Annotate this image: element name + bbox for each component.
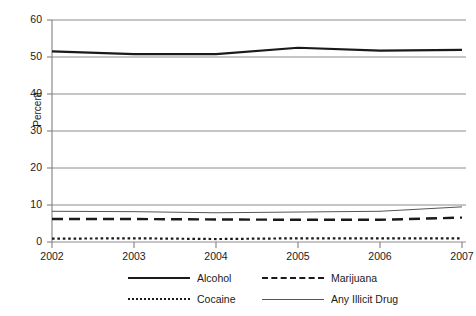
legend-line-icon-cocaine <box>128 293 190 305</box>
series-line-cocaine <box>52 238 462 239</box>
legend-item-any-illicit-drug: Any Illicit Drug <box>262 291 398 307</box>
plot-area <box>0 0 476 268</box>
legend-line-icon-marijuana <box>262 272 324 284</box>
legend-item-alcohol: Alcohol <box>128 270 231 286</box>
x-tick-label: 2003 <box>114 251 154 262</box>
legend-line-icon-alcohol <box>128 272 190 284</box>
x-tick-label: 2004 <box>196 251 236 262</box>
x-tick-label: 2007 <box>442 251 476 262</box>
x-tick-label: 2002 <box>32 251 72 262</box>
y-tick-label: 60 <box>18 14 42 24</box>
legend-label-any-illicit-drug: Any Illicit Drug <box>324 293 398 305</box>
x-tick-label: 2006 <box>360 251 400 262</box>
legend-label-alcohol: Alcohol <box>190 272 231 284</box>
series-line-any-illicit-drug <box>52 207 462 213</box>
x-tick-label: 2005 <box>278 251 318 262</box>
data-series-group <box>52 48 462 239</box>
series-line-alcohol <box>52 48 462 54</box>
y-tick-label: 50 <box>18 51 42 61</box>
legend-label-cocaine: Cocaine <box>190 293 236 305</box>
x-axis-ticks <box>52 242 462 248</box>
legend-item-marijuana: Marijuana <box>262 270 377 286</box>
y-axis-ticks <box>47 20 52 242</box>
y-tick-label: 30 <box>18 125 42 135</box>
chart-legend: Alcohol Marijuana Cocaine Any Illicit Dr… <box>0 268 476 316</box>
legend-label-marijuana: Marijuana <box>324 272 377 284</box>
line-chart: Percent 0102030405060 200220032004200520… <box>0 0 476 316</box>
legend-line-icon-any-illicit-drug <box>262 293 324 305</box>
y-tick-label: 40 <box>18 88 42 98</box>
y-tick-label: 0 <box>18 236 42 246</box>
y-tick-label: 20 <box>18 162 42 172</box>
series-line-marijuana <box>52 218 462 220</box>
y-tick-label: 10 <box>18 199 42 209</box>
legend-item-cocaine: Cocaine <box>128 291 236 307</box>
